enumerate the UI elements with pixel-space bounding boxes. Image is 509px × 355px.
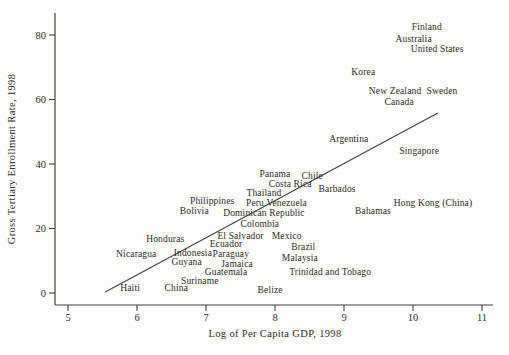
x-axis-title: Log of Per Capita GDP, 1998 [208, 328, 341, 339]
trend-line [105, 113, 438, 292]
y-axis-title: Gross Tertiary Enrollment Rate, 1998 [6, 74, 17, 245]
plot-axes-and-trend-line [0, 0, 509, 355]
tertiary-enrollment-vs-gdp-scatter-chart: 020406080567891011FinlandAustraliaUnited… [0, 0, 509, 355]
